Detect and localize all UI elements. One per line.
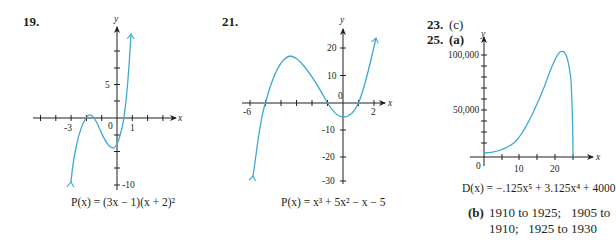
y-tick-label: 100,000 [448, 50, 479, 60]
x-tick-label: 20 [550, 164, 560, 174]
y-tick-label: -10 [122, 180, 135, 190]
x-axis-label: x [387, 98, 393, 108]
curve-21 [253, 38, 376, 176]
x-tick-label: 1 [130, 123, 135, 133]
x-tick-label: 0 [108, 121, 113, 131]
graph-25a: 0 10 20 100,000 50,000 x y [448, 29, 601, 174]
x-tick-label: 10 [514, 164, 524, 174]
x-axis-label: x [177, 113, 183, 123]
x-tick-label: 0 [476, 161, 481, 171]
y-tick-label: 20 [327, 43, 337, 53]
graph-21: -6 0 2 20 10 -10 -20 -30 x y [242, 15, 393, 186]
y-tick-label: 50,000 [453, 105, 479, 115]
x-tick-label: 0 [338, 91, 343, 101]
y-axis-label: y [480, 29, 486, 39]
y-axis-label: y [113, 14, 119, 24]
problem-25-part-b: (b) [468, 205, 484, 221]
y-tick-label: -30 [322, 176, 335, 186]
caption-21: P(x) = x³ + 5x² − x − 5 [281, 196, 385, 208]
y-axis-label: y [339, 15, 345, 25]
curve-25a [484, 51, 573, 157]
y-tick-label: -10 [322, 125, 335, 135]
caption-25a: D(x) = −.125x⁵ + 3.125x⁴ + 4000 [462, 182, 615, 194]
answer-b-line2: 1910; 1925 to 1930 [489, 221, 597, 237]
y-tick-label: -20 [322, 152, 335, 162]
answer-b-line1: 1910 to 1925; 1905 to [489, 205, 610, 221]
x-tick-label: -3 [64, 123, 72, 133]
x-tick-label: -6 [243, 107, 251, 117]
curve-19 [71, 34, 131, 182]
y-tick-label: 10 [327, 71, 337, 81]
x-axis-label: x [595, 152, 601, 162]
graph-19: -3 0 1 5 -10 x y [33, 14, 183, 190]
y-tick-label: 5 [105, 80, 110, 90]
caption-19: P(x) = (3x − 1)(x + 2)² [71, 196, 175, 208]
x-tick-label: 2 [371, 107, 376, 117]
